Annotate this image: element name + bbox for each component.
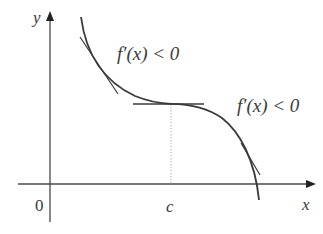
diagram-canvas: y 0 c x f′(x) < 0 f′(x) < 0 [0,0,323,234]
x-axis-label: x [301,195,310,214]
function-graph: y 0 c x f′(x) < 0 f′(x) < 0 [0,0,323,234]
derivative-annotation-left: f′(x) < 0 [117,43,180,65]
derivative-annotation-right: f′(x) < 0 [237,95,300,117]
y-axis-label: y [31,8,41,27]
right-tangent-line [241,143,260,175]
c-label: c [166,197,174,216]
origin-label: 0 [35,196,44,215]
left-tangent-line [80,37,118,94]
